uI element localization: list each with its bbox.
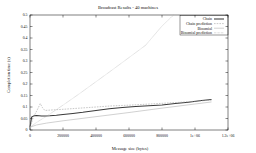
- x-tick-label: 400000: [90, 134, 102, 138]
- y-axis-label: Completion time (s): [6, 57, 11, 93]
- x-tick-label: 1.2e+06: [222, 134, 235, 138]
- y-tick-label: 0.05: [21, 117, 28, 121]
- x-tick-label: 0: [29, 134, 31, 138]
- y-tick-label: 0: [26, 128, 28, 132]
- y-tick-label: 0.3: [23, 59, 28, 63]
- y-tick-label: 0.35: [21, 48, 28, 52]
- legend-label: Chain prediction: [186, 22, 212, 26]
- series-line-binomial: [30, 102, 212, 127]
- y-tick-label: 0.5: [23, 13, 28, 17]
- y-tick-label: 0.2: [23, 82, 28, 86]
- y-tick-label: 0.25: [21, 71, 28, 75]
- chart-title: Broadcast Results - 40 machines: [98, 5, 158, 10]
- x-tick-label: 1e+06: [190, 134, 200, 138]
- x-tick-label: 200000: [57, 134, 69, 138]
- y-tick-label: 0.15: [21, 94, 28, 98]
- legend-label: Chain: [203, 17, 212, 21]
- legend-label: Binomial: [198, 27, 212, 31]
- x-tick-label: 600000: [123, 134, 135, 138]
- y-tick-label: 0.45: [21, 25, 28, 29]
- y-tick-label: 0.4: [23, 36, 28, 40]
- x-tick-label: 800000: [156, 134, 168, 138]
- y-tick-label: 0.1: [23, 105, 28, 109]
- chart-container: Broadcast Results - 40 machines Message …: [0, 0, 256, 153]
- series-line-binomial-prediction: [30, 15, 174, 127]
- legend-label: Binomial prediction: [181, 31, 212, 35]
- line-chart: Broadcast Results - 40 machines Message …: [0, 0, 256, 153]
- x-axis-label: Message size (bytes): [112, 146, 149, 151]
- chart-legend: ChainChain predictionBinomialBinomial pr…: [180, 16, 228, 35]
